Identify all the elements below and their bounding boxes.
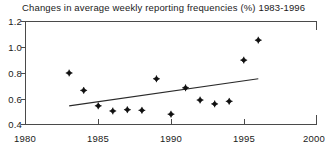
data-point bbox=[182, 84, 189, 91]
data-point bbox=[211, 101, 218, 108]
data-point bbox=[80, 87, 87, 94]
data-point bbox=[226, 98, 233, 105]
data-point bbox=[168, 111, 175, 118]
data-point bbox=[255, 37, 262, 44]
chart-figure: Changes in average weekly reporting freq… bbox=[0, 0, 330, 149]
y-axis-ticks bbox=[21, 22, 25, 125]
x-axis-ticks bbox=[26, 119, 317, 124]
data-point bbox=[240, 57, 247, 64]
data-point bbox=[153, 75, 160, 82]
plot-area bbox=[0, 0, 330, 149]
data-point bbox=[95, 102, 102, 109]
data-point bbox=[139, 107, 146, 114]
data-point bbox=[109, 108, 116, 115]
data-point bbox=[124, 106, 131, 113]
data-point bbox=[197, 97, 204, 104]
data-point bbox=[66, 70, 73, 77]
data-point-series bbox=[66, 37, 262, 118]
